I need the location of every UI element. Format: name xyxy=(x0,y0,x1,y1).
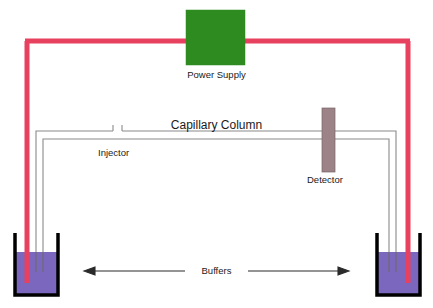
power-supply-box xyxy=(186,10,245,65)
power-supply-label: Power Supply xyxy=(0,70,433,80)
capillary-column-label: Capillary Column xyxy=(0,119,433,131)
right-buffer-beaker xyxy=(376,233,421,296)
detector-label: Detector xyxy=(307,175,343,185)
capillary-tube xyxy=(36,125,396,272)
capillary-inner xyxy=(43,139,389,272)
detector-box xyxy=(322,108,335,172)
injector-label: Injector xyxy=(98,148,129,158)
diagram-canvas xyxy=(0,0,433,308)
capillary-electrophoresis-diagram: Power Supply Capillary Column Injector D… xyxy=(0,0,433,308)
capillary-outer-right xyxy=(122,131,396,272)
buffers-label: Buffers xyxy=(0,266,433,276)
